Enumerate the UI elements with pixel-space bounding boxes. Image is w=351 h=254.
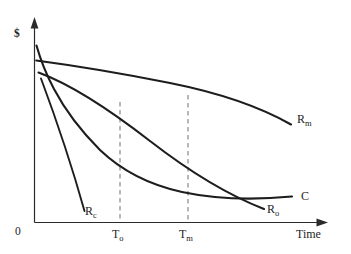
series-rc-base: R xyxy=(85,204,93,218)
x-axis xyxy=(35,219,329,227)
chart-figure: $ 0 Time To Tm Rm Ro Rc C xyxy=(0,0,351,254)
x-tick-tm-sub: m xyxy=(186,233,193,243)
x-tick-label-to: To xyxy=(112,228,124,240)
x-axis-label: Time xyxy=(296,228,321,240)
series-rm-sub: m xyxy=(305,118,312,128)
x-tick-to-sub: o xyxy=(119,233,123,243)
chart-canvas xyxy=(0,0,351,254)
series-curve-rc xyxy=(41,79,85,212)
series-ro-base: R xyxy=(267,202,275,216)
y-axis-label: $ xyxy=(14,28,20,40)
x-tick-label-tm: Tm xyxy=(179,228,193,240)
series-rm-base: R xyxy=(297,112,305,126)
series-label-ro: Ro xyxy=(267,203,279,215)
series-rc-sub: c xyxy=(93,210,97,220)
series-label-rc: Rc xyxy=(85,205,97,217)
origin-label: 0 xyxy=(15,226,21,238)
series-label-c: C xyxy=(301,190,309,202)
series-curve-ro xyxy=(39,73,265,210)
series-label-rm: Rm xyxy=(297,113,312,125)
series-ro-sub: o xyxy=(275,208,279,218)
series-curve-rm xyxy=(36,61,291,125)
